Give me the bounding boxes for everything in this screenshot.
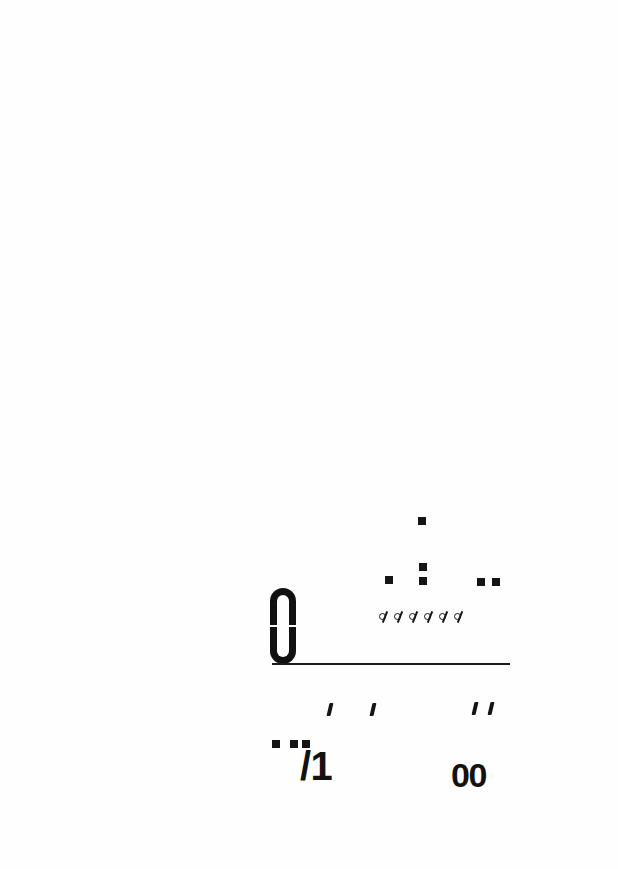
colon-mark-lower	[419, 577, 427, 585]
slashed-o-mark	[454, 611, 462, 622]
colon-mark-upper	[419, 563, 427, 571]
slash-one-fragment: /1	[300, 744, 332, 789]
cup-glyph-half	[270, 627, 296, 664]
apostrophe-4	[487, 702, 494, 715]
period-mark-right-b	[492, 578, 500, 586]
document-page: /1 00	[0, 0, 618, 869]
slashed-o-mark	[379, 611, 387, 622]
slashed-o-mark	[439, 611, 447, 622]
period-mark-top	[418, 517, 426, 525]
apostrophe-3	[471, 702, 478, 715]
horizontal-rule	[272, 663, 510, 665]
bottom-dot-2	[290, 740, 298, 748]
slashed-o-mark	[409, 611, 417, 622]
period-mark-left	[385, 576, 393, 584]
apostrophe-2	[369, 703, 376, 716]
stacked-cap-cup-glyph	[270, 588, 296, 664]
cap-glyph-half	[270, 588, 296, 625]
double-zero-fragment: 00	[451, 756, 486, 795]
slashed-o-row	[379, 611, 462, 622]
bottom-dot-1	[272, 740, 280, 748]
apostrophe-1	[326, 703, 333, 716]
period-mark-right-a	[477, 578, 485, 586]
slashed-o-mark	[424, 611, 432, 622]
slashed-o-mark	[394, 611, 402, 622]
